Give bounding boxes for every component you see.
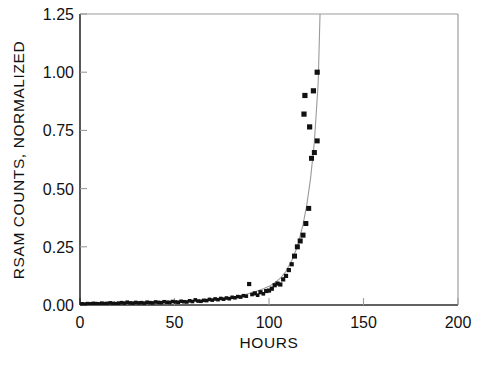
data-point <box>292 254 297 259</box>
data-point <box>301 233 306 238</box>
y-tick-label-4: 1.00 <box>43 64 74 81</box>
data-point <box>278 282 282 286</box>
x-tick-label-3: 150 <box>350 314 377 331</box>
data-point <box>295 244 300 249</box>
data-point <box>303 221 308 226</box>
data-point <box>312 150 317 155</box>
data-point <box>298 238 303 243</box>
x-tick-label-0: 0 <box>76 314 85 331</box>
data-point <box>311 88 316 93</box>
data-point <box>306 206 311 211</box>
data-point <box>302 93 307 98</box>
y-tick-label-3: 0.75 <box>43 122 74 139</box>
y-tick-label-5: 1.25 <box>43 6 74 23</box>
rsam-normalized-scatter-chart: 0.00 0.25 0.50 0.75 1.00 1.25 0 50 100 1… <box>0 0 482 367</box>
data-point <box>284 274 288 278</box>
y-tick-label-0: 0.00 <box>43 297 74 314</box>
x-axis-title: HOURS <box>240 334 299 351</box>
y-axis-title: RSAM COUNTS, NORMALIZED <box>10 41 27 280</box>
data-point <box>301 112 306 117</box>
chart-figure: 0.00 0.25 0.50 0.75 1.00 1.25 0 50 100 1… <box>0 0 482 367</box>
data-point <box>290 262 294 266</box>
x-tick-label-1: 50 <box>166 314 184 331</box>
x-tick-label-4: 200 <box>445 314 472 331</box>
data-point <box>247 282 251 286</box>
data-point <box>245 294 249 298</box>
data-point <box>307 124 312 129</box>
data-point <box>315 138 320 143</box>
data-point <box>309 156 314 161</box>
y-tick-label-1: 0.25 <box>43 239 74 256</box>
y-tick-label-2: 0.50 <box>43 181 74 198</box>
data-point <box>287 268 291 272</box>
x-tick-label-2: 100 <box>256 314 283 331</box>
data-point <box>315 70 320 75</box>
